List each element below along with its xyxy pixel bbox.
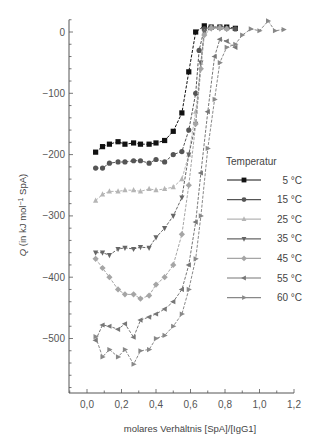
- triangle-right-marker-icon: [187, 287, 192, 292]
- y-tick-label: −200: [42, 149, 65, 160]
- triangle-left-marker-icon: [130, 335, 135, 340]
- circle-marker-icon: [122, 159, 127, 164]
- legend-item: 60 °C: [227, 292, 302, 303]
- square-marker-icon: [131, 140, 136, 145]
- triangle-right-marker-icon: [242, 295, 247, 300]
- x-tick-label: 0,6: [184, 399, 198, 410]
- series-line: [96, 27, 227, 201]
- triangle-up-marker-icon: [93, 197, 98, 202]
- triangle-left-marker-icon: [153, 311, 158, 316]
- x-tick-label: 1,0: [253, 399, 267, 410]
- legend-item: 55 °C: [227, 273, 302, 284]
- diamond-marker-icon: [241, 256, 247, 262]
- circle-marker-icon: [93, 165, 98, 170]
- triangle-left-marker-icon: [170, 299, 175, 304]
- circle-marker-icon: [242, 197, 247, 202]
- circle-marker-icon: [107, 161, 112, 166]
- square-marker-icon: [115, 139, 120, 144]
- legend-title: Temperatur: [226, 156, 277, 167]
- diamond-marker-icon: [93, 256, 99, 262]
- square-marker-icon: [107, 142, 112, 147]
- series-15c: [93, 24, 238, 170]
- y-tick-label: 0: [59, 27, 65, 38]
- circle-marker-icon: [162, 159, 167, 164]
- legend-item: 25 °C: [227, 214, 302, 225]
- circle-marker-icon: [153, 157, 158, 162]
- triangle-right-marker-icon: [218, 60, 223, 65]
- legend-item: 5 °C: [227, 175, 302, 186]
- triangle-right-marker-icon: [273, 28, 278, 33]
- series-line: [96, 28, 227, 298]
- triangle-up-marker-icon: [131, 187, 136, 192]
- triangle-down-marker-icon: [115, 247, 120, 252]
- triangle-right-marker-icon: [225, 45, 230, 50]
- y-tick-label: −100: [42, 88, 65, 99]
- circle-marker-icon: [138, 158, 143, 163]
- diamond-marker-icon: [170, 262, 176, 268]
- diamond-marker-icon: [198, 66, 204, 72]
- diamond-marker-icon: [193, 121, 199, 127]
- triangle-left-marker-icon: [115, 327, 120, 332]
- circle-marker-icon: [147, 161, 152, 166]
- circle-marker-icon: [233, 26, 238, 31]
- triangle-left-marker-icon: [224, 39, 229, 44]
- triangle-left-marker-icon: [146, 314, 151, 319]
- series-group: [93, 18, 287, 366]
- triangle-right-marker-icon: [138, 348, 143, 353]
- triangle-down-marker-icon: [179, 195, 184, 200]
- square-marker-icon: [242, 178, 247, 183]
- circle-marker-icon: [179, 149, 184, 154]
- triangle-down-marker-icon: [131, 247, 136, 252]
- legend-label: 35 °C: [277, 233, 302, 244]
- x-tick-label: 1,2: [287, 399, 301, 410]
- square-marker-icon: [138, 142, 143, 147]
- circle-marker-icon: [171, 152, 176, 157]
- square-marker-icon: [193, 29, 198, 34]
- triangle-up-marker-icon: [171, 184, 176, 189]
- series-line: [96, 26, 236, 152]
- triangle-down-marker-icon: [198, 61, 203, 66]
- triangle-left-marker-icon: [106, 324, 111, 329]
- triangle-down-marker-icon: [186, 153, 191, 158]
- triangle-up-marker-icon: [122, 187, 127, 192]
- triangle-right-marker-icon: [171, 324, 176, 329]
- y-tick-label: −500: [42, 333, 65, 344]
- triangle-down-marker-icon: [171, 214, 176, 219]
- legend-item: 45 °C: [227, 253, 302, 264]
- triangle-right-marker-icon: [154, 336, 159, 341]
- square-marker-icon: [147, 142, 152, 147]
- series-line: [96, 27, 236, 168]
- triangle-right-marker-icon: [257, 28, 262, 33]
- triangle-left-marker-icon: [241, 276, 246, 281]
- triangle-right-marker-icon: [131, 362, 136, 367]
- diamond-marker-icon: [122, 291, 128, 297]
- square-marker-icon: [122, 142, 127, 147]
- square-marker-icon: [100, 144, 105, 149]
- diamond-marker-icon: [146, 292, 152, 298]
- square-marker-icon: [186, 69, 191, 74]
- y-tick-label: −400: [42, 272, 65, 283]
- legend-item: 35 °C: [227, 233, 302, 244]
- diamond-marker-icon: [137, 296, 143, 302]
- triangle-left-marker-icon: [186, 262, 191, 267]
- legend-label: 15 °C: [277, 194, 302, 205]
- circle-marker-icon: [100, 165, 105, 170]
- x-tick-label: 0,4: [149, 399, 163, 410]
- x-tick-label: 0,0: [80, 399, 94, 410]
- triangle-right-marker-icon: [282, 27, 287, 32]
- square-marker-icon: [153, 140, 158, 145]
- triangle-down-marker-icon: [107, 253, 112, 258]
- triangle-right-marker-icon: [266, 18, 271, 23]
- diamond-marker-icon: [179, 231, 185, 237]
- diamond-marker-icon: [162, 274, 168, 280]
- triangle-down-marker-icon: [147, 246, 152, 251]
- triangle-right-marker-icon: [194, 256, 199, 261]
- triangle-left-marker-icon: [179, 287, 184, 292]
- triangle-right-marker-icon: [123, 347, 128, 352]
- square-marker-icon: [171, 129, 176, 134]
- legend-label: 45 °C: [277, 253, 302, 264]
- circle-marker-icon: [197, 48, 202, 53]
- x-tick-label: 0,8: [218, 399, 232, 410]
- square-marker-icon: [162, 138, 167, 143]
- legend-label: 60 °C: [277, 292, 302, 303]
